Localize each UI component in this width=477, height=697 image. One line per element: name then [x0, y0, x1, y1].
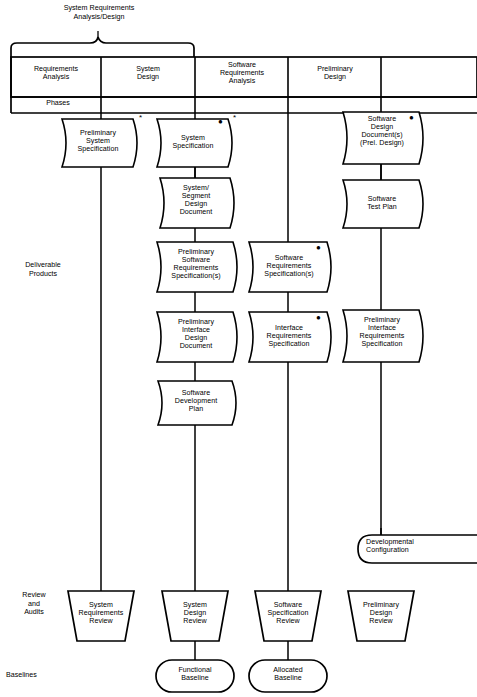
doc-label-software-development-plan: Software Development Plan — [162, 390, 230, 414]
phase-header-preliminary-design: Preliminary Design — [292, 65, 378, 81]
dot-marker-software-requirements-specifications: ● — [316, 244, 321, 252]
phase-group-brace-label: System Requirements Analysis/Design — [48, 4, 150, 21]
doc-label-software-design-documents-prel-design: Software Design Document(s) (Prel. Desig… — [347, 116, 417, 148]
review-label-system-design-review: System Design Review — [165, 602, 225, 626]
asterisk-marker-preliminary-system-specification: * — [139, 114, 142, 122]
phase-group-brace — [11, 37, 194, 57]
doc-label-preliminary-system-specification: Preliminary System Specification — [68, 130, 128, 154]
doc-label-system-segment-design-document: System/ Segment Design Document — [166, 185, 226, 217]
row-label-deliverable-products: Deliverable Products — [6, 261, 80, 278]
phase-header-software-requirements-analysis: Software Requirements Analysis — [199, 61, 285, 85]
phase-header-system-design: System Design — [105, 65, 191, 81]
phase-header-requirements-analysis: Requirements Analysis — [13, 65, 99, 81]
dot-marker-interface-requirements-specification: ● — [316, 314, 321, 322]
baseline-label-functional-baseline: Functional Baseline — [165, 667, 225, 683]
dot-marker-system-specification: ● — [218, 118, 223, 126]
review-label-system-requirements-review: System Requirements Review — [71, 602, 131, 626]
doc-label-software-requirements-specifications: Software Requirements Specification(s) — [253, 255, 325, 279]
baseline-label-allocated-baseline: Allocated Baseline — [258, 667, 318, 683]
doc-label-system-specification: System Specification — [163, 135, 223, 151]
doc-label-preliminary-interface-design-document: Preliminary Interface Design Document — [161, 319, 231, 351]
row-label-review-and-audits: Review and Audits — [6, 591, 62, 617]
row-label-baselines: Baselines — [6, 671, 66, 680]
doc-label-software-test-plan: Software Test Plan — [347, 196, 417, 212]
asterisk-marker-system-specification: * — [233, 114, 236, 122]
review-label-software-specification-review: Software Specification Review — [258, 602, 318, 626]
doc-label-interface-requirements-specification: Interface Requirements Specification — [253, 325, 325, 349]
diagram-canvas: System Requirements Analysis/Design Requ… — [0, 0, 477, 697]
dot-marker-software-design-documents: ● — [409, 114, 414, 122]
doc-label-preliminary-software-requirements-specifications: Preliminary Software Requirements Specif… — [161, 249, 231, 281]
label-developmental-configuration: Developmental Configuration — [366, 539, 444, 555]
review-label-preliminary-design-review: Preliminary Design Review — [351, 602, 411, 626]
row-label-phases: Phases — [28, 99, 88, 108]
doc-label-preliminary-interface-requirements-specification: Preliminary Interface Requirements Speci… — [347, 317, 417, 349]
